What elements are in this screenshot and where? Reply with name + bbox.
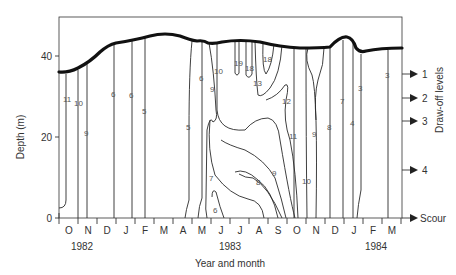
- month-label: D: [331, 225, 338, 236]
- svg-text:10: 10: [302, 177, 311, 186]
- month-label: J: [238, 225, 243, 236]
- right-axis-title: Draw-off levels: [434, 67, 445, 133]
- month-label: O: [293, 225, 301, 236]
- y-axis-title: Depth (m): [15, 115, 26, 159]
- draw-off-level-1: 1: [422, 69, 428, 80]
- year-label-1982: 1982: [71, 241, 94, 252]
- svg-text:10: 10: [214, 67, 223, 76]
- month-label: M: [388, 225, 396, 236]
- arrow-right-icon: [410, 70, 418, 78]
- x-year-labels: 1982 1983 1984: [71, 241, 388, 252]
- svg-text:4: 4: [350, 119, 355, 128]
- month-label: F: [142, 225, 148, 236]
- month-label: J: [352, 225, 357, 236]
- month-label: A: [256, 225, 263, 236]
- contour-chart: 11 10 9 6 6 5 5 6 10 9 19 18 18 13 12 11…: [0, 0, 456, 275]
- svg-text:8: 8: [327, 123, 332, 132]
- svg-text:7: 7: [340, 97, 345, 106]
- year-label-1984: 1984: [365, 241, 388, 252]
- svg-text:3: 3: [385, 71, 390, 80]
- water-surface-line: [59, 34, 402, 72]
- y-axis: 40 20 0 Depth (m): [15, 51, 59, 224]
- svg-text:6: 6: [213, 206, 218, 215]
- draw-off-level-2: 2: [422, 93, 428, 104]
- svg-text:18: 18: [245, 64, 254, 73]
- svg-text:6: 6: [199, 74, 204, 83]
- arrow-right-icon: [410, 94, 418, 102]
- x-month-labels: O N D J F M A M J J A S O N D J F M: [65, 225, 396, 236]
- month-label: J: [124, 225, 129, 236]
- plot-frame: [59, 17, 402, 218]
- svg-text:9: 9: [272, 169, 277, 178]
- y-tick-0: 0: [46, 213, 52, 224]
- arrow-right-icon: [410, 214, 418, 222]
- month-label: M: [160, 225, 168, 236]
- month-label: A: [180, 225, 187, 236]
- svg-text:10: 10: [74, 99, 83, 108]
- draw-off-level-3: 3: [422, 116, 428, 127]
- svg-text:5: 5: [142, 107, 147, 116]
- month-label: N: [312, 225, 319, 236]
- svg-text:18: 18: [263, 55, 272, 64]
- month-label: J: [219, 225, 224, 236]
- svg-text:9: 9: [84, 129, 89, 138]
- arrow-right-icon: [410, 117, 418, 125]
- draw-off-level-4: 4: [422, 165, 428, 176]
- arrow-right-icon: [410, 166, 418, 174]
- svg-text:3: 3: [358, 84, 363, 93]
- year-label-1983: 1983: [219, 241, 242, 252]
- svg-text:19: 19: [234, 59, 243, 68]
- month-label: N: [84, 225, 91, 236]
- contour-labels: 11 10 9 6 6 5 5 6 10 9 19 18 18 13 12 11…: [63, 55, 390, 215]
- draw-off-level-scour: Scour: [420, 213, 447, 224]
- month-label: S: [275, 225, 282, 236]
- month-label: D: [103, 225, 110, 236]
- svg-text:11: 11: [289, 132, 298, 141]
- svg-text:6: 6: [129, 91, 134, 100]
- x-axis-title: Year and month: [195, 258, 265, 269]
- svg-text:6: 6: [111, 90, 116, 99]
- month-label: M: [198, 225, 206, 236]
- y-tick-20: 20: [41, 132, 53, 143]
- svg-text:5: 5: [186, 123, 191, 132]
- svg-text:9: 9: [210, 85, 215, 94]
- svg-text:12: 12: [282, 97, 291, 106]
- contour-lines: [59, 38, 388, 218]
- svg-text:9: 9: [312, 130, 317, 139]
- y-tick-40: 40: [41, 51, 53, 62]
- month-label: O: [65, 225, 73, 236]
- svg-text:13: 13: [253, 79, 262, 88]
- x-axis-ticks: [59, 213, 401, 224]
- svg-text:8: 8: [256, 178, 261, 187]
- month-label: F: [370, 225, 376, 236]
- svg-text:11: 11: [63, 95, 72, 104]
- svg-text:7: 7: [209, 174, 214, 183]
